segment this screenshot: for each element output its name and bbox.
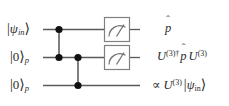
psi-subscript-in-1: in <box>18 27 25 37</box>
hat-accent-1: ˆ <box>165 15 171 26</box>
meter-gate-wire-2 <box>105 46 130 70</box>
coupling-1-control-dot-wire-2 <box>55 54 62 61</box>
proportional-symbol: ∝ <box>152 78 160 92</box>
output-label-wire-2: U(3)†ˆpU(3) <box>157 50 207 63</box>
u-operator-letter-2: U <box>189 49 198 63</box>
coupling-1-control-dot-wire-1 <box>55 26 62 33</box>
u-operator-exponent-2: (3) <box>198 49 207 58</box>
ket-subscript-p-2: p <box>25 55 29 65</box>
coupling-2-control-dot-wire-3 <box>74 82 81 89</box>
u-operator-dagger-exponent: (3) <box>166 49 175 58</box>
p-hat-operator-2: ˆp <box>180 50 186 63</box>
ket-subscript-p-3: p <box>25 83 29 93</box>
input-label-wire-2: |0⟩p <box>10 50 29 64</box>
u-operator-letter-3: U <box>163 78 172 92</box>
output-label-wire-3: ∝U(3)|ψin⟩ <box>152 78 206 93</box>
u-operator-exponent-3: (3) <box>173 78 182 87</box>
input-label-wire-3: |0⟩p <box>10 78 29 92</box>
coupling-2-control-dot-wire-2 <box>74 54 81 61</box>
output-label-wire-1: ˆp <box>165 22 171 35</box>
ket-close-out-3: ⟩ <box>201 77 206 92</box>
meter-gate-wire-1 <box>105 18 130 42</box>
meter-gate-wire-2-box <box>105 46 130 70</box>
meter-gate-wire-1-box <box>105 18 130 42</box>
input-label-wire-1: |ψin⟩ <box>7 22 30 36</box>
dagger-symbol: † <box>175 49 179 58</box>
ket-close-1: ⟩ <box>25 21 30 36</box>
quantum-circuit-figure: |ψin⟩ |0⟩p |0⟩p ˆp U(3)†ˆpU(3) ∝U(3)|ψin… <box>0 0 229 106</box>
hat-accent-2: ˆ <box>180 43 186 54</box>
u-operator-dagger-letter: U <box>157 49 166 63</box>
psi-symbol-1: ψ <box>10 21 18 36</box>
p-hat-operator-1: ˆp <box>165 22 171 35</box>
